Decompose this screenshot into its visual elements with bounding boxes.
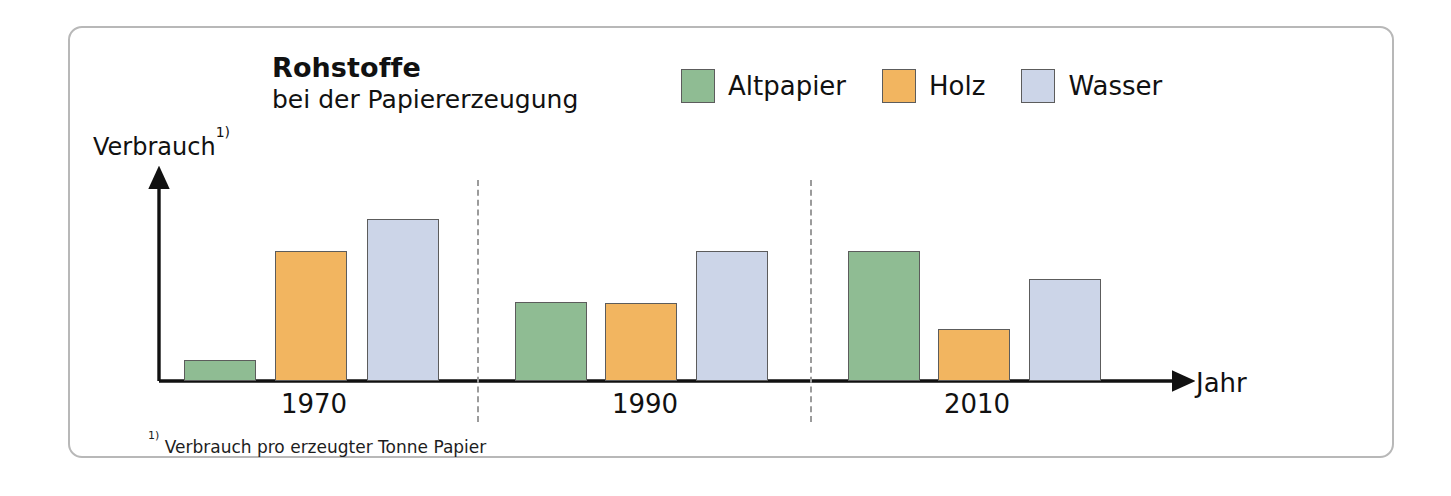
bar-1990-altpapier	[515, 302, 587, 381]
x-tick-label-1970: 1970	[281, 389, 347, 419]
legend-label-altpapier: Altpapier	[728, 71, 846, 101]
bar-2010-wasser	[1029, 279, 1101, 381]
y-axis-title: Verbrauch1)	[93, 133, 230, 161]
y-axis-footnote-marker: 1)	[216, 124, 230, 140]
y-axis-title-text: Verbrauch	[93, 133, 216, 161]
chart-title-block: Rohstoffe bei der Papiererzeugung	[272, 52, 672, 114]
chart-legend: Altpapier Holz Wasser	[681, 69, 1162, 103]
legend-swatch-holz	[882, 69, 916, 103]
legend-swatch-altpapier	[681, 69, 715, 103]
bar-1970-wasser	[367, 219, 439, 381]
group-divider-2	[810, 180, 812, 422]
bar-1970-altpapier	[184, 360, 256, 381]
bar-1990-holz	[605, 303, 677, 381]
bar-2010-holz	[938, 329, 1010, 381]
group-divider-1	[477, 180, 479, 422]
x-tick-label-2010: 2010	[944, 389, 1010, 419]
x-axis-title: Jahr	[1196, 368, 1247, 398]
legend-item-holz: Holz	[882, 69, 985, 103]
x-tick-label-1990: 1990	[612, 389, 678, 419]
chart-title: Rohstoffe	[272, 52, 672, 84]
chart-footnote: 1) Verbrauch pro erzeugter Tonne Papier	[148, 436, 486, 457]
bar-2010-altpapier	[848, 251, 920, 381]
legend-item-altpapier: Altpapier	[681, 69, 846, 103]
screenshot-root: Rohstoffe bei der Papiererzeugung Altpap…	[0, 0, 1451, 496]
footnote-marker: 1)	[148, 429, 159, 442]
legend-label-holz: Holz	[929, 71, 985, 101]
bar-1990-wasser	[696, 251, 768, 381]
legend-swatch-wasser	[1021, 69, 1055, 103]
chart-subtitle: bei der Papiererzeugung	[272, 85, 672, 115]
legend-label-wasser: Wasser	[1068, 71, 1162, 101]
footnote-text: Verbrauch pro erzeugter Tonne Papier	[159, 437, 486, 457]
legend-item-wasser: Wasser	[1021, 69, 1162, 103]
bar-1970-holz	[275, 251, 347, 381]
